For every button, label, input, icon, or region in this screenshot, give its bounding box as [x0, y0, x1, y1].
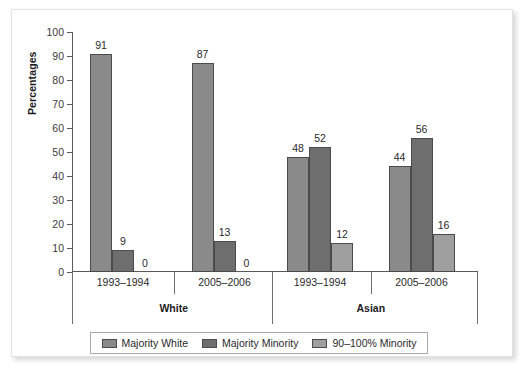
- y-tick-mark: [67, 248, 72, 249]
- sub-group-separator: [371, 272, 372, 294]
- y-axis-title: Percentages: [26, 51, 38, 115]
- bar-value-label: 52: [314, 132, 326, 144]
- legend-label: Majority Minority: [222, 337, 298, 349]
- bar-value-label: 0: [244, 257, 250, 269]
- super-group-separator: [272, 272, 273, 324]
- legend-item: 90–100% Minority: [312, 337, 416, 349]
- bar-value-label: 13: [219, 226, 231, 238]
- axis-right-stub: [477, 272, 478, 324]
- bar-value-label: 0: [142, 257, 148, 269]
- legend-item: Majority Minority: [202, 337, 298, 349]
- legend-item: Majority White: [102, 337, 189, 349]
- category-sub-label: 1993–1994: [294, 276, 347, 288]
- y-tick-label: 40: [52, 170, 64, 182]
- bar: [90, 54, 112, 272]
- bar-value-label: 48: [292, 142, 304, 154]
- y-tick-label: 100: [46, 26, 64, 38]
- bar-value-label: 87: [197, 48, 209, 60]
- y-tick-mark: [67, 224, 72, 225]
- bar-value-label: 56: [416, 123, 428, 135]
- bar-value-label: 16: [438, 219, 450, 231]
- y-tick-label: 80: [52, 74, 64, 86]
- axis-left-stub: [72, 272, 73, 324]
- bar-value-label: 9: [120, 235, 126, 247]
- y-tick-label: 0: [58, 266, 64, 278]
- bar: [112, 250, 134, 272]
- y-tick-mark: [67, 104, 72, 105]
- y-tick-label: 70: [52, 98, 64, 110]
- y-tick-mark: [67, 80, 72, 81]
- bar: [411, 138, 433, 272]
- super-group-label: Asian: [356, 302, 385, 314]
- chart-figure-frame: Percentages 0102030405060708090100 91908…: [11, 9, 513, 357]
- y-tick-mark: [67, 56, 72, 57]
- bar-value-label: 91: [95, 39, 107, 51]
- bar: [309, 147, 331, 272]
- bar: [214, 241, 236, 272]
- y-tick-label: 50: [52, 146, 64, 158]
- super-group-label: White: [159, 302, 188, 314]
- bar: [331, 243, 353, 272]
- y-tick-mark: [67, 128, 72, 129]
- y-tick-mark: [67, 152, 72, 153]
- y-tick-label: 10: [52, 242, 64, 254]
- bar: [389, 166, 411, 272]
- y-tick-label: 20: [52, 218, 64, 230]
- y-tick-mark: [67, 32, 72, 33]
- category-sub-label: 2005–2006: [395, 276, 448, 288]
- bar: [287, 157, 309, 272]
- sub-group-separator: [174, 272, 175, 294]
- y-axis-line: [72, 32, 73, 272]
- legend-swatch-icon: [202, 339, 217, 348]
- y-tick-label: 90: [52, 50, 64, 62]
- bar: [192, 63, 214, 272]
- y-tick-label: 60: [52, 122, 64, 134]
- bar-value-label: 12: [336, 228, 348, 240]
- bar-value-label: 44: [394, 151, 406, 163]
- y-tick-mark: [67, 176, 72, 177]
- plot-area: 0102030405060708090100 91908713048521244…: [72, 32, 478, 272]
- category-axis: 1993–19942005–20061993–19942005–2006Whit…: [72, 272, 478, 330]
- bar: [433, 234, 455, 272]
- category-sub-label: 2005–2006: [198, 276, 251, 288]
- legend-swatch-icon: [312, 339, 327, 348]
- legend-label: 90–100% Minority: [332, 337, 416, 349]
- y-tick-label: 30: [52, 194, 64, 206]
- legend-swatch-icon: [102, 339, 117, 348]
- legend-label: Majority White: [122, 337, 189, 349]
- category-sub-label: 1993–1994: [97, 276, 150, 288]
- chart-legend: Majority WhiteMajority Minority90–100% M…: [90, 332, 428, 354]
- y-tick-mark: [67, 200, 72, 201]
